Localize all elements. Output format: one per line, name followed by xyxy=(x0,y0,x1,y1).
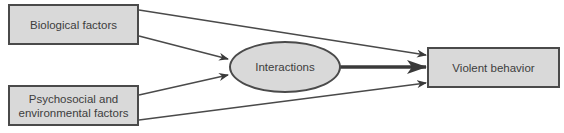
node-violent-behavior: Violent behavior xyxy=(427,47,560,88)
node-label: Violent behavior xyxy=(452,61,534,75)
node-interactions: Interactions xyxy=(229,41,341,93)
node-label: Interactions xyxy=(255,60,314,74)
node-label: Biological factors xyxy=(30,18,117,32)
node-psychosocial-factors: Psychosocial and environmental factors xyxy=(8,85,139,126)
node-label: Psychosocial and environmental factors xyxy=(14,92,133,120)
node-biological-factors: Biological factors xyxy=(8,4,139,45)
edge-psychosocial-to-interactions xyxy=(139,75,228,95)
edge-biological-to-interactions xyxy=(139,36,228,59)
